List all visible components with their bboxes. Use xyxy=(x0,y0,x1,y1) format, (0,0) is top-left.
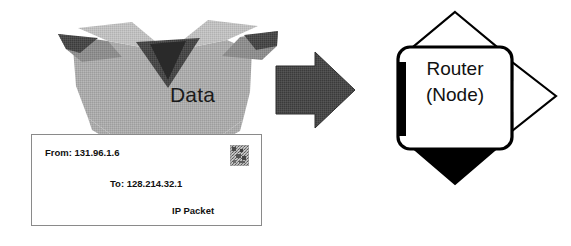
router-label-line2: (Node) xyxy=(399,82,511,108)
diagram-canvas: Data From: 131.96.1.6 To: 128.214.32.1 I… xyxy=(0,0,571,246)
postage-stamp-icon xyxy=(230,145,249,166)
envelope-type-label: IP Packet xyxy=(172,205,214,217)
router-label: Router (Node) xyxy=(399,56,511,108)
ip-packet-envelope: From: 131.96.1.6 To: 128.214.32.1 IP Pac… xyxy=(31,134,262,226)
router-label-line1: Router xyxy=(399,56,511,82)
envelope-from-line: From: 131.96.1.6 xyxy=(45,147,119,159)
data-box-label: Data xyxy=(170,82,215,108)
envelope-to-line: To: 128.214.32.1 xyxy=(110,178,182,190)
